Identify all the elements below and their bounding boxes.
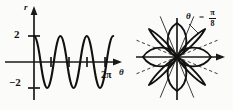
- petal-45deg: [177, 29, 205, 57]
- theta-annotation-equals: =: [199, 13, 204, 22]
- annotation-leader-line: [189, 24, 198, 33]
- math-figure-polar-rose: r 2 −2 2π θ θ = π 8: [0, 0, 233, 110]
- polar-horizontal-arrowhead: [216, 54, 225, 61]
- r-axis-label: r: [24, 3, 28, 12]
- theta-axis-label: θ: [119, 68, 124, 77]
- theta-annotation-symbol: θ: [186, 12, 191, 21]
- tick-label-two-pi: 2π: [101, 70, 111, 80]
- tick-label-negative-two: −2: [9, 77, 21, 88]
- polar-rose-group: [136, 16, 225, 100]
- cartesian-plot-group: [5, 6, 122, 100]
- petal-315deg: [177, 57, 205, 85]
- petal-135deg: [149, 29, 177, 57]
- tick-label-positive-two: 2: [14, 29, 20, 40]
- petal-225deg: [149, 57, 177, 85]
- theta-annotation-fraction: π 8: [209, 9, 216, 28]
- fraction-denominator-eight: 8: [210, 20, 216, 28]
- theta-axis-arrowhead: [113, 59, 122, 66]
- r-axis-arrowhead: [31, 6, 38, 15]
- fraction-numerator-pi: π: [209, 9, 215, 17]
